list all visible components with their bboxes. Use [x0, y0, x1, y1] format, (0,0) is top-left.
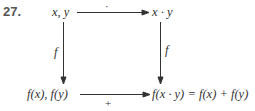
bottom-edge-label: +	[105, 98, 111, 109]
top-arrowhead-icon	[142, 10, 149, 15]
left-edge-label: f	[54, 46, 57, 59]
right-edge-label: f	[165, 44, 168, 57]
right-arrowhead-icon	[158, 77, 163, 84]
top-edge-label: ·	[105, 1, 109, 12]
left-arrowhead-icon	[61, 77, 66, 84]
bottom-arrowhead-icon	[143, 92, 150, 97]
arrows-layer	[0, 0, 255, 111]
